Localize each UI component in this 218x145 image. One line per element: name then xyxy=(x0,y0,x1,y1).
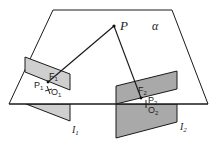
point-P xyxy=(112,24,115,27)
point-P1 xyxy=(47,81,50,84)
label-P: P xyxy=(119,18,128,33)
image-plane-1-lower xyxy=(26,104,70,121)
diagram-svg: P α F1 P1 O1 I1 F2 P2 O2 I2 xyxy=(0,0,218,145)
label-I1: I1 xyxy=(71,124,79,137)
label-I2: I2 xyxy=(179,121,187,134)
stereo-projection-diagram: P α F1 P1 O1 I1 F2 P2 O2 I2 xyxy=(0,0,218,145)
point-P2 xyxy=(140,97,143,100)
label-alpha: α xyxy=(152,19,159,33)
image-plane-2-lower xyxy=(116,104,177,138)
